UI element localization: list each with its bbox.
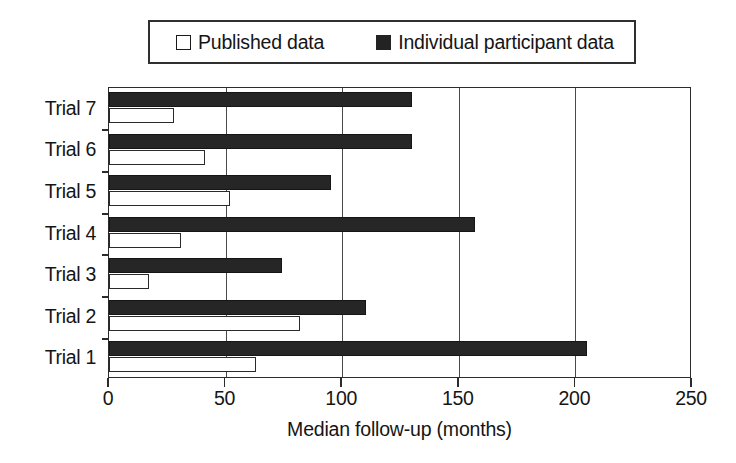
plot-frame [108, 87, 691, 378]
x-axis-tick-label-100: 100 [325, 387, 357, 410]
median-followup-bar-chart: Published data Individual participant da… [0, 0, 736, 463]
bar-individual-participant-data-trial-2 [109, 300, 366, 315]
y-axis-tick-6 [102, 338, 109, 340]
y-axis-labels: Trial 7 Trial 6 Trial 5 Trial 4 Trial 3 … [0, 87, 102, 378]
x-axis-tick-150 [457, 378, 459, 387]
bar-published-data-trial-7 [109, 108, 174, 123]
bar-group-trial-5 [109, 171, 690, 213]
y-axis-label-trial-6: Trial 6 [45, 138, 96, 161]
bar-individual-participant-data-trial-7 [109, 92, 412, 107]
bar-individual-participant-data-trial-3 [109, 258, 282, 273]
y-axis-tick-1 [102, 129, 109, 131]
y-axis-tick-3 [102, 213, 109, 215]
x-axis-tick-100 [340, 378, 342, 387]
x-axis-tick-label-0: 0 [103, 387, 114, 410]
x-axis-tick-label-150: 150 [442, 387, 474, 410]
legend-label-individual-participant-data: Individual participant data [398, 31, 614, 54]
y-axis-tick-4 [102, 254, 109, 256]
bar-published-data-trial-6 [109, 150, 205, 165]
y-axis-label-trial-3: Trial 3 [45, 263, 96, 286]
bar-published-data-trial-1 [109, 357, 256, 372]
y-axis-label-trial-1: Trial 1 [45, 346, 96, 369]
y-axis-tick-5 [102, 296, 109, 298]
bar-individual-participant-data-trial-4 [109, 217, 475, 232]
x-axis-tick-label-50: 50 [214, 387, 235, 410]
bar-individual-participant-data-trial-1 [109, 341, 587, 356]
bar-published-data-trial-5 [109, 191, 230, 206]
open-square-swatch-icon [176, 35, 191, 50]
bar-published-data-trial-3 [109, 274, 149, 289]
bar-group-trial-7 [109, 88, 690, 130]
x-axis-tick-label-250: 250 [675, 387, 707, 410]
y-axis-label-trial-7: Trial 7 [45, 97, 96, 120]
bar-published-data-trial-2 [109, 316, 300, 331]
x-axis-title: Median follow-up (months) [108, 418, 691, 441]
filled-square-swatch-icon [376, 35, 391, 50]
legend-entry-published-data: Published data [176, 31, 324, 54]
y-axis-tick-2 [102, 171, 109, 173]
bar-group-trial-2 [109, 296, 690, 338]
bar-group-trial-6 [109, 130, 690, 172]
x-axis-tick-50 [224, 378, 226, 387]
bar-individual-participant-data-trial-5 [109, 175, 331, 190]
bar-group-trial-1 [109, 337, 690, 379]
legend-label-published-data: Published data [198, 31, 324, 54]
chart-legend: Published data Individual participant da… [148, 20, 636, 64]
bar-group-trial-4 [109, 213, 690, 255]
y-axis-label-trial-4: Trial 4 [45, 222, 96, 245]
x-axis-tick-0 [107, 378, 109, 387]
x-axis-tick-200 [574, 378, 576, 387]
bar-published-data-trial-4 [109, 233, 181, 248]
y-axis-label-trial-5: Trial 5 [45, 180, 96, 203]
x-axis-tick-label-200: 200 [559, 387, 591, 410]
legend-entry-individual-participant-data: Individual participant data [376, 31, 614, 54]
x-axis-tick-labels: 050100150200250 [108, 387, 691, 413]
x-axis-ticks [108, 378, 691, 387]
plot-area [109, 88, 690, 377]
y-axis-label-trial-2: Trial 2 [45, 305, 96, 328]
x-axis-tick-250 [690, 378, 692, 387]
bar-group-trial-3 [109, 254, 690, 296]
bar-individual-participant-data-trial-6 [109, 134, 412, 149]
